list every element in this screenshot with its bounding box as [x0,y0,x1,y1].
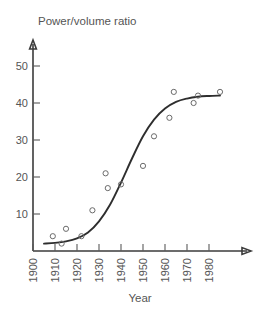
data-point-marker [151,134,156,139]
x-tick-label: 1960 [159,258,171,282]
fitted-logistic-curve [44,96,220,244]
x-tick-label: 1910 [49,258,61,282]
data-point-marker [50,234,55,239]
chart-title: Power/volume ratio [38,15,136,27]
data-point-marker [90,208,95,213]
y-tick-label: 50 [16,60,28,72]
data-point-marker [140,163,145,168]
data-point-marker [171,89,176,94]
y-tick-label: 30 [16,134,28,146]
data-point-marker [105,186,110,191]
y-tick-label: 40 [16,97,28,109]
y-axis-ticks: 1020304050 [16,60,40,220]
x-tick-label: 1940 [115,258,127,282]
data-points-layer [50,89,222,246]
x-tick-label: 1980 [203,258,215,282]
data-point-marker [167,115,172,120]
power-volume-ratio-scatter-chart: Power/volume ratio 1020304050 1900191019… [0,0,273,311]
data-point-marker [103,171,108,176]
x-tick-label: 1930 [93,258,105,282]
data-point-marker [63,226,68,231]
x-tick-label: 1900 [27,258,39,282]
x-tick-label: 1950 [137,258,149,282]
x-tick-label: 1970 [181,258,193,282]
data-point-marker [217,89,222,94]
y-tick-label: 20 [16,171,28,183]
x-axis-ticks: 190019101920193019401950196019701980 [27,244,215,282]
x-axis-title: Year [128,292,151,304]
chart-axes [30,40,251,254]
data-point-marker [191,100,196,105]
y-tick-label: 10 [16,208,28,220]
chart-container: Power/volume ratio 1020304050 1900191019… [0,0,273,311]
x-tick-label: 1920 [71,258,83,282]
